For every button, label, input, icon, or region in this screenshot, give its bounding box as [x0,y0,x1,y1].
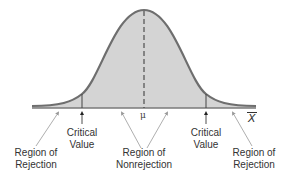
nonrejection-arrow-right [147,113,167,148]
mean-label: μ [140,110,146,120]
x-bar-label: X [247,112,257,124]
left-rejection-arrow [36,113,58,146]
left-critical-label: Critical Value [62,127,102,151]
left-rejection-label: Region of Rejection [8,147,64,171]
right-rejection-label: Region of Rejection [226,147,282,171]
nonrejection-label: Region of Nonrejection [110,147,178,171]
right-critical-label: Critical Value [186,127,226,151]
nonrejection-arrow-left [122,113,141,148]
